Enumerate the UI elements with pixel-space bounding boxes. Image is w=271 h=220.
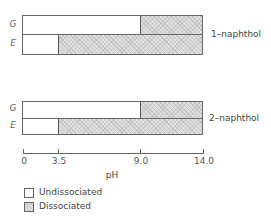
x-tick-3.5 [58,149,59,153]
x-tick-14.0 [203,149,204,153]
x-tick-label: 0 [21,156,27,166]
legend-swatch-undissociated [24,188,34,198]
bar-row-g [22,101,203,119]
group-label-2-naphthol: 2–naphthol [209,113,259,123]
dissociated-segment [140,102,202,118]
group-label-1-naphthol: 1–naphthol [211,29,261,39]
legend-swatch-dissociated [24,202,34,212]
dissociated-segment [140,16,202,34]
x-axis-line [23,153,204,154]
row-label-g: G [7,19,19,29]
group-2-naphthol [22,101,203,135]
dissociated-segment [58,35,202,54]
undissociated-segment [23,102,140,118]
bar-row-e [22,118,203,135]
row-label-g: G [7,103,19,113]
x-axis-title: pH [106,170,118,180]
x-tick-label: 14.0 [194,156,214,166]
row-label-e: E [7,120,19,130]
undissociated-segment [23,35,58,54]
x-tick-0 [23,149,24,153]
group-1-naphthol [22,15,203,55]
legend-label-dissociated: Dissociated [39,201,91,211]
x-tick-label: 9.0 [134,156,148,166]
legend-label-undissociated: Undissociated [39,187,102,197]
x-tick-label: 3.5 [52,156,66,166]
bar-row-g [22,15,203,35]
undissociated-segment [23,119,58,134]
row-label-e: E [7,38,19,48]
undissociated-segment [23,16,140,34]
dissociated-segment [58,119,202,134]
bar-row-e [22,34,203,55]
x-tick-9.0 [140,149,141,153]
